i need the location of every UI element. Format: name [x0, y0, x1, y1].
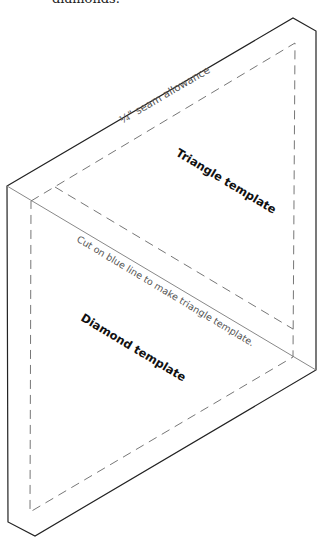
seam-dashed-outline — [30, 43, 295, 512]
triangle-template-label: Triangle template — [173, 146, 279, 217]
diamond-template-label: Diamond template — [78, 311, 188, 385]
template-diagram: ¼" seam allowance Triangle template Cut … — [0, 0, 328, 537]
seam-allowance-label: ¼" seam allowance — [117, 63, 212, 125]
triangle-dashed-base — [55, 187, 293, 329]
